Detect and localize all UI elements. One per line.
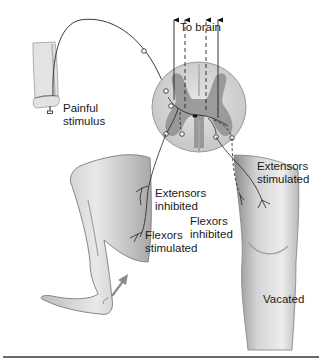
extensors-inhibited-label: Extensors inhibited (155, 187, 206, 213)
sensory-nerve (53, 19, 168, 97)
stimulated-foot (33, 42, 59, 114)
extensors-stimulated-label: Extensors stimulated (257, 160, 309, 186)
flexed-left-leg (41, 155, 151, 315)
bottom-divider (3, 356, 319, 358)
withdrawal-arrow (112, 274, 128, 296)
flexors-stimulated-label: Flexors stimulated (145, 229, 197, 255)
painful-stimulus-label: Painful stimulus (63, 102, 105, 128)
reflex-diagram: To brain Painful stimulus Extensors stim… (0, 0, 322, 364)
to-brain-label: To brain (180, 21, 221, 34)
vacated-label: Vacated (263, 293, 304, 306)
